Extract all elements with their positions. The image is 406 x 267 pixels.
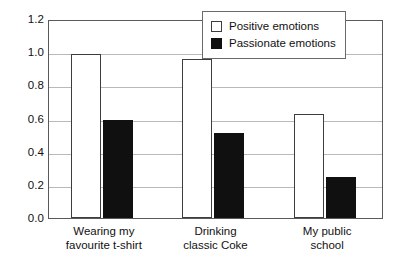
x-axis-category-line: classic Coke — [160, 238, 272, 252]
x-axis-category-line: My public — [271, 224, 383, 238]
legend-item-label: Passionate emotions — [229, 37, 336, 50]
chart-legend: Positive emotionsPassionate emotions — [202, 11, 346, 59]
x-axis-category-line: school — [271, 238, 383, 252]
y-axis-tick-label: 0.8 — [2, 80, 44, 92]
x-axis-category-line: Drinking — [160, 224, 272, 238]
x-axis-category-label: Drinkingclassic Coke — [160, 224, 272, 252]
bar-passionate-emotions — [326, 177, 356, 218]
y-axis-tick-label: 0.6 — [2, 114, 44, 126]
bar-passionate-emotions — [214, 133, 244, 218]
bar-positive-emotions — [182, 59, 212, 218]
filled-square-swatch — [211, 38, 222, 49]
bar-group — [49, 21, 161, 218]
x-axis-category-label: Wearing myfavourite t-shirt — [48, 224, 160, 252]
bar-chart: 0.00.20.40.60.81.01.2 Wearing myfavourit… — [0, 0, 406, 267]
y-axis-tick-label: 1.2 — [2, 14, 44, 26]
bar-passionate-emotions — [103, 120, 133, 218]
y-axis-tick-label: 1.0 — [2, 47, 44, 59]
y-axis-tick-label: 0.4 — [2, 147, 44, 159]
x-axis-category-label: My publicschool — [271, 224, 383, 252]
y-axis-tick-label: 0.2 — [2, 180, 44, 192]
y-axis: 0.00.20.40.60.81.01.2 — [0, 0, 44, 267]
x-axis: Wearing myfavourite t-shirtDrinkingclass… — [48, 224, 383, 264]
open-square-swatch — [211, 21, 222, 32]
legend-item: Positive emotions — [211, 18, 336, 35]
bar-positive-emotions — [294, 114, 324, 218]
legend-item: Passionate emotions — [211, 35, 336, 52]
x-axis-category-line: favourite t-shirt — [48, 238, 160, 252]
legend-item-label: Positive emotions — [229, 20, 319, 33]
bar-positive-emotions — [71, 54, 101, 218]
x-axis-category-line: Wearing my — [48, 224, 160, 238]
y-axis-tick-label: 0.0 — [2, 213, 44, 225]
